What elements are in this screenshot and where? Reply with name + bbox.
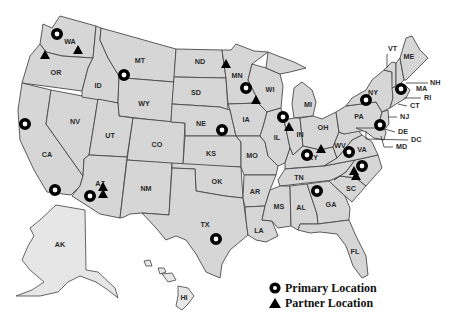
- state-label-id: ID: [94, 81, 101, 90]
- legend-partner-label: Partner Location: [285, 296, 373, 310]
- state-label-tx: TX: [200, 220, 209, 229]
- legend-primary-label: Primary Location: [285, 281, 377, 295]
- state-label-fl: FL: [351, 247, 360, 256]
- state-label-oh: OH: [318, 123, 329, 132]
- state-label-de: DE: [398, 127, 408, 136]
- primary-location-marker: [303, 151, 311, 159]
- primary-location-marker: [345, 148, 353, 156]
- state-label-ga: GA: [326, 200, 337, 209]
- state-label-tn: TN: [294, 173, 304, 182]
- partner-marker-icon: [269, 298, 281, 308]
- primary-location-marker: [86, 192, 94, 200]
- state-label-sc: SC: [346, 184, 356, 193]
- state-label-ia: IA: [242, 115, 249, 124]
- state-label-nj: NJ: [400, 112, 409, 121]
- hi-island-3: [162, 273, 176, 282]
- state-label-dc: DC: [411, 135, 421, 144]
- primary-location-marker: [279, 113, 287, 121]
- state-label-ms: MS: [274, 202, 285, 211]
- state-label-mn: MN: [231, 71, 242, 80]
- legend-partner: Partner Location: [269, 296, 373, 310]
- state-label-ma: MA: [416, 84, 427, 93]
- primary-location-marker: [120, 71, 128, 79]
- state-label-nv: NV: [70, 117, 80, 126]
- state-label-sd: SD: [191, 88, 201, 97]
- state-label-co: CO: [152, 140, 163, 149]
- legend: Primary Location Partner Location: [269, 281, 377, 310]
- primary-marker-icon: [271, 284, 279, 292]
- state-label-ok: OK: [212, 177, 224, 186]
- state-label-ne: NE: [196, 119, 206, 128]
- state-label-ca: CA: [42, 150, 52, 159]
- hi-island-1: [144, 260, 152, 266]
- primary-location-marker: [218, 126, 226, 134]
- state-label-vt: VT: [388, 44, 398, 53]
- primary-location-marker: [21, 120, 29, 128]
- state-label-me: ME: [404, 52, 415, 61]
- state-label-wy: WY: [138, 99, 150, 108]
- hi-island-2: [158, 268, 166, 274]
- us-map: WAORCAIDNVMTWYUTCOAZNMNDSDNEKSOKTXMNIAMO…: [0, 0, 459, 328]
- primary-location-marker: [313, 187, 321, 195]
- primary-location-marker: [242, 84, 250, 92]
- primary-location-marker: [358, 162, 366, 170]
- primary-location-marker: [53, 30, 61, 38]
- state-label-al: AL: [296, 203, 306, 212]
- state-label-in: IN: [296, 130, 303, 139]
- state-label-nm: NM: [140, 184, 151, 193]
- state-label-mt: MT: [135, 56, 146, 65]
- state-label-nd: ND: [195, 57, 205, 66]
- state-label-mi: MI: [304, 100, 312, 109]
- state-label-ut: UT: [105, 131, 115, 140]
- legend-primary: Primary Location: [271, 281, 377, 295]
- state-label-ar: AR: [250, 187, 261, 196]
- state-label-md: MD: [396, 142, 407, 151]
- state-label-il: IL: [274, 133, 281, 142]
- state-label-wa: WA: [64, 37, 76, 46]
- state-ak: [16, 205, 118, 298]
- state-label-la: LA: [254, 226, 264, 235]
- state-label-ak: AK: [55, 240, 66, 249]
- primary-location-marker: [362, 96, 370, 104]
- primary-location-marker: [376, 121, 384, 129]
- state-label-pa: PA: [354, 112, 363, 121]
- state-label-nh: NH: [430, 78, 440, 87]
- state-label-mo: MO: [246, 151, 258, 160]
- state-label-va: VA: [357, 145, 366, 154]
- state-label-ri: RI: [424, 93, 431, 102]
- primary-location-marker: [51, 186, 59, 194]
- state-label-or: OR: [51, 68, 63, 77]
- primary-location-marker: [212, 235, 220, 243]
- state-label-ct: CT: [410, 101, 420, 110]
- state-label-wi: WI: [266, 85, 275, 94]
- state-label-hi: HI: [180, 293, 187, 302]
- state-label-ks: KS: [206, 149, 216, 158]
- primary-location-marker: [397, 85, 405, 93]
